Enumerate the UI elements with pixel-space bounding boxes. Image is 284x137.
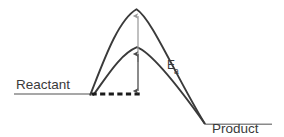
activation-energy-subscript: a bbox=[174, 66, 179, 76]
energy-profile-svg: Reactant Product E a bbox=[0, 0, 284, 137]
product-label: Product bbox=[212, 121, 259, 136]
reactant-label: Reactant bbox=[16, 77, 70, 92]
reaction-energy-diagram: Reactant Product E a bbox=[0, 0, 284, 137]
uncatalyzed-energy-curve bbox=[90, 9, 205, 124]
catalyzed-energy-curve bbox=[93, 47, 205, 124]
